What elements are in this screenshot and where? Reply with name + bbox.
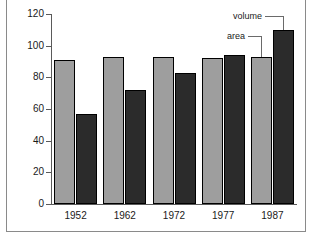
figure-border-right [305, 0, 306, 232]
figure-border-left [6, 0, 7, 232]
y-axis-tick-label: 80 [33, 70, 44, 83]
bar-1972-volume [175, 73, 196, 204]
x-axis-label-1962: 1962 [100, 210, 149, 221]
y-axis-tick-mark [46, 46, 51, 47]
bar-1987-volume [273, 30, 294, 204]
plot-area: 020406080100120 19521962197219771987 [51, 14, 297, 204]
annotation-label-volume: volume [214, 11, 262, 21]
y-axis-tick-label: 120 [27, 7, 44, 20]
y-axis-tick-mark [46, 204, 51, 205]
bar-1977-area [202, 58, 223, 204]
y-axis-tick-label: 100 [27, 39, 44, 52]
bar-1972-area [153, 57, 174, 204]
annotation-leader-area-vertical [261, 36, 262, 57]
annotation-leader-volume-horizontal [265, 16, 283, 17]
x-axis-label-1972: 1972 [149, 210, 198, 221]
bar-1962-area [103, 57, 124, 204]
x-axis-line [51, 204, 297, 205]
bar-1952-area [54, 60, 75, 204]
y-axis-tick-label: 60 [33, 102, 44, 115]
x-axis-label-1977: 1977 [199, 210, 248, 221]
bar-1987-area [251, 57, 272, 204]
y-axis-tick-mark [46, 109, 51, 110]
annotation-label-area: area [205, 31, 245, 41]
bar-1952-volume [76, 114, 97, 204]
bar-1977-volume [224, 55, 245, 204]
y-axis-tick-mark [46, 172, 51, 173]
y-axis-tick-mark [46, 141, 51, 142]
y-axis-tick-label: 0 [38, 197, 44, 210]
y-axis-tick-mark [46, 14, 51, 15]
chart-figure: 020406080100120 19521962197219771987 vol… [0, 0, 312, 242]
figure-border-bottom [6, 231, 306, 232]
annotation-leader-volume-vertical [283, 16, 284, 30]
annotation-leader-area-horizontal [248, 36, 261, 37]
y-axis-tick-mark [46, 77, 51, 78]
x-axis-label-1987: 1987 [248, 210, 297, 221]
y-axis-line [51, 14, 52, 204]
bar-1962-volume [125, 90, 146, 204]
x-axis-label-1952: 1952 [51, 210, 100, 221]
y-axis-tick-label: 20 [33, 165, 44, 178]
y-axis-tick-label: 40 [33, 134, 44, 147]
